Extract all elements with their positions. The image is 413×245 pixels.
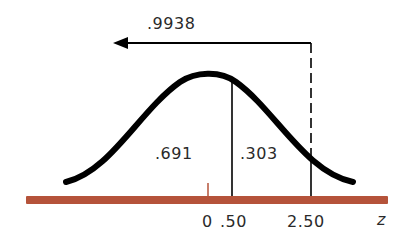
area-middle-label: .303 xyxy=(240,146,278,162)
arrow-head-icon xyxy=(113,37,128,49)
tick-label-050: .50 xyxy=(220,214,247,230)
axis-variable-label: z xyxy=(377,212,386,228)
bell-curve xyxy=(66,74,353,182)
diagram-canvas xyxy=(0,0,413,245)
arrow-probability-label: .9938 xyxy=(147,16,195,32)
tick-label-250: 2.50 xyxy=(287,214,325,230)
tick-label-zero: 0 xyxy=(202,214,213,230)
area-left-label: .691 xyxy=(155,146,193,162)
normal-curve-diagram: .9938 .691 .303 0 .50 2.50 z xyxy=(0,0,413,245)
z-axis-bar xyxy=(26,196,388,204)
